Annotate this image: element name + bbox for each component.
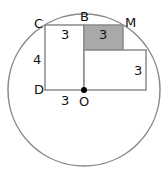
label-M: M: [125, 15, 136, 30]
length-right-side: 3: [134, 63, 142, 78]
geometry-diagram: C B M D O 3 3 4 3 3: [0, 0, 168, 178]
length-left-top: 3: [61, 27, 69, 42]
label-D: D: [34, 82, 44, 97]
label-C: C: [34, 16, 43, 31]
label-B: B: [80, 9, 89, 24]
length-left-bottom: 3: [61, 93, 69, 108]
length-left-side: 4: [33, 52, 41, 67]
label-O: O: [79, 94, 89, 109]
center-point-O: [81, 87, 87, 93]
length-shaded: 3: [99, 27, 107, 42]
